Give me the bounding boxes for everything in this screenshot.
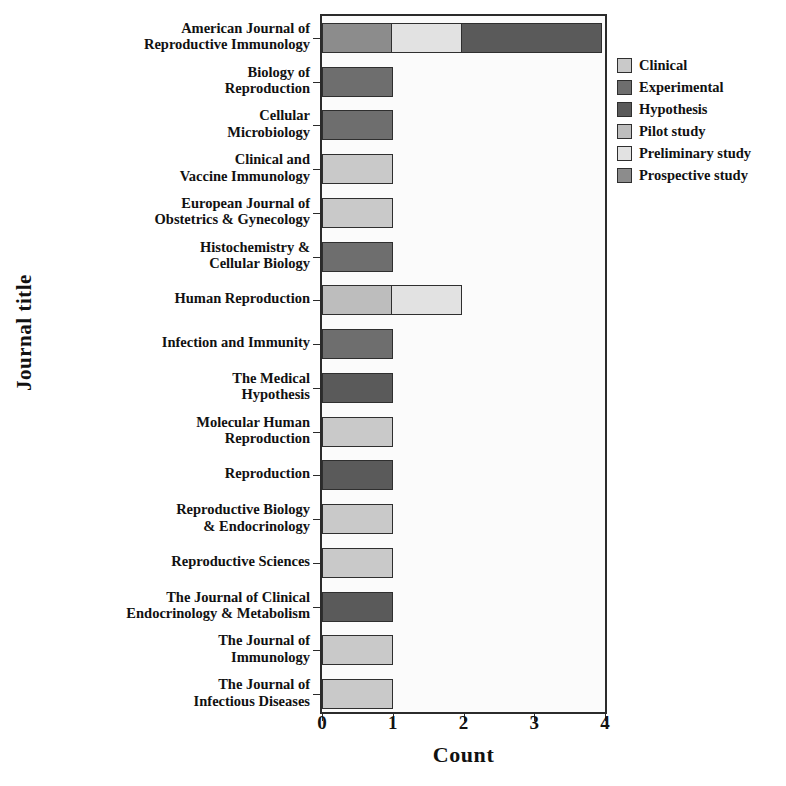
- bar-segment: [322, 154, 393, 184]
- x-axis-tick-label: 0: [302, 712, 342, 734]
- y-axis-tick-mark: [313, 213, 322, 214]
- bar-segment: [322, 504, 393, 534]
- bar: [322, 635, 393, 665]
- bar-segment: [322, 635, 393, 665]
- y-axis-tick-mark: [313, 38, 322, 39]
- legend-item: Preliminary study: [617, 143, 783, 164]
- bar: [322, 329, 393, 359]
- legend-swatch: [617, 124, 632, 139]
- y-axis-tick-label: Cellular Microbiology: [38, 107, 314, 140]
- legend-swatch: [617, 80, 632, 95]
- legend-label: Preliminary study: [639, 145, 751, 162]
- bar: [322, 679, 393, 709]
- y-axis-tick-mark: [313, 650, 322, 651]
- bar: [322, 67, 393, 97]
- plot-area: [320, 14, 607, 714]
- chart-figure: Journal title American Journal of Reprod…: [0, 0, 786, 786]
- legend-label: Experimental: [639, 79, 724, 96]
- y-axis-tick-label: American Journal of Reproductive Immunol…: [38, 19, 314, 52]
- bar: [322, 154, 393, 184]
- y-axis-tick-label: Biology of Reproduction: [38, 63, 314, 96]
- x-axis-tick-label: 1: [373, 712, 413, 734]
- y-axis-tick-mark: [313, 519, 322, 520]
- bar-segment: [461, 23, 603, 53]
- y-axis-tick-mark: [313, 388, 322, 389]
- y-axis-tick-mark: [313, 694, 322, 695]
- legend-label: Pilot study: [639, 123, 705, 140]
- y-axis-tick-mark: [313, 82, 322, 83]
- bar-segment: [322, 679, 393, 709]
- bar: [322, 242, 393, 272]
- y-axis-tick-mark: [313, 257, 322, 258]
- y-axis-tick-label: The Journal of Immunology: [38, 632, 314, 665]
- legend-label: Clinical: [639, 57, 687, 74]
- x-axis-tick-label: 3: [514, 712, 554, 734]
- bar-segment: [322, 592, 393, 622]
- y-axis-tick-mark: [313, 169, 322, 170]
- bar: [322, 198, 393, 228]
- bar: [322, 417, 393, 447]
- bar-segment: [322, 329, 393, 359]
- bar: [322, 504, 393, 534]
- y-axis-tick-mark: [313, 125, 322, 126]
- y-axis-tick-label: The Journal of Infectious Diseases: [38, 676, 314, 709]
- bar-segment: [322, 373, 393, 403]
- legend-item: Hypothesis: [617, 99, 783, 120]
- bar-segment: [322, 23, 393, 53]
- bar-segment: [322, 417, 393, 447]
- bar-segment: [322, 548, 393, 578]
- bar: [322, 460, 393, 490]
- y-axis-tick-mark: [313, 475, 322, 476]
- bar-segment: [322, 67, 393, 97]
- bar-segment: [391, 285, 462, 315]
- bar-segment: [322, 460, 393, 490]
- y-axis-tick-label: The Journal of Clinical Endocrinology & …: [38, 588, 314, 621]
- legend-swatch: [617, 168, 632, 183]
- bar: [322, 110, 393, 140]
- y-axis-tick-mark: [313, 432, 322, 433]
- chart-legend: ClinicalExperimentalHypothesisPilot stud…: [617, 55, 783, 187]
- y-axis-tick-mark: [313, 563, 322, 564]
- bar-segment: [322, 242, 393, 272]
- y-axis-tick-mark: [313, 344, 322, 345]
- y-axis-tick-mark: [313, 300, 322, 301]
- bar: [322, 285, 462, 315]
- legend-swatch: [617, 146, 632, 161]
- y-axis-tick-label: The Medical Hypothesis: [38, 369, 314, 402]
- legend-item: Clinical: [617, 55, 783, 76]
- x-axis-title: Count: [320, 742, 607, 768]
- bar-segment: [322, 110, 393, 140]
- y-axis-title: Journal title: [12, 213, 37, 453]
- y-axis-tick-label: Clinical and Vaccine Immunology: [38, 151, 314, 184]
- y-axis-tick-label: European Journal of Obstetrics & Gynecol…: [38, 194, 314, 227]
- bar: [322, 373, 393, 403]
- legend-swatch: [617, 58, 632, 73]
- plot-inner: [322, 16, 605, 712]
- y-axis-tick-label: Infection and Immunity: [38, 334, 314, 351]
- bar-segment: [322, 198, 393, 228]
- bar-segment: [391, 23, 462, 53]
- bar: [322, 548, 393, 578]
- y-axis-tick-label: Reproductive Biology & Endocrinology: [38, 501, 314, 534]
- legend-item: Experimental: [617, 77, 783, 98]
- legend-item: Pilot study: [617, 121, 783, 142]
- y-axis-tick-label: Human Reproduction: [38, 290, 314, 307]
- legend-label: Prospective study: [639, 167, 748, 184]
- y-axis-tick-label: Molecular Human Reproduction: [38, 413, 314, 446]
- bar-segment: [322, 285, 393, 315]
- bar: [322, 592, 393, 622]
- legend-item: Prospective study: [617, 165, 783, 186]
- legend-label: Hypothesis: [639, 101, 708, 118]
- y-axis-tick-label: Reproductive Sciences: [38, 553, 314, 570]
- x-axis-tick-label: 4: [585, 712, 625, 734]
- legend-swatch: [617, 102, 632, 117]
- y-axis-tick-label: Histochemistry & Cellular Biology: [38, 238, 314, 271]
- y-axis-tick-labels: American Journal of Reproductive Immunol…: [42, 14, 314, 714]
- bar: [322, 23, 602, 53]
- x-axis-tick-label: 2: [444, 712, 484, 734]
- y-axis-tick-label: Reproduction: [38, 465, 314, 482]
- y-axis-tick-mark: [313, 607, 322, 608]
